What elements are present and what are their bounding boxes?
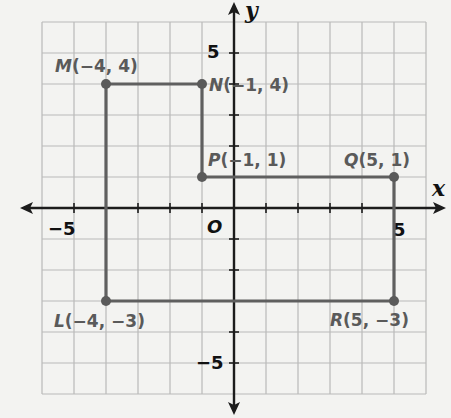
x-axis-name: x: [431, 175, 446, 201]
coordinate-plane: x y 5 −5 −5 5 O M(−4, 4) N(−1, 4) P(−1, …: [0, 0, 451, 418]
label-P: P(−1, 1): [208, 150, 286, 170]
y-tick-label-neg5: −5: [196, 352, 224, 373]
label-N: N(−1, 4): [209, 75, 289, 95]
y-axis-name: y: [244, 0, 260, 23]
point-R: [389, 296, 399, 306]
x-tick-label-neg5: −5: [48, 218, 76, 239]
y-tick-label-pos5: 5: [207, 41, 220, 62]
label-M: M(−4, 4): [55, 56, 138, 76]
point-Q: [389, 172, 399, 182]
origin-label: O: [207, 216, 222, 237]
label-R: R(5, −3): [330, 310, 409, 330]
point-M: [101, 79, 111, 89]
point-N: [197, 79, 207, 89]
label-Q: Q(5, 1): [344, 150, 410, 170]
point-L: [101, 296, 111, 306]
point-P: [197, 172, 207, 182]
figure-polygon: [106, 84, 394, 301]
label-L: L(−4, −3): [54, 311, 145, 331]
